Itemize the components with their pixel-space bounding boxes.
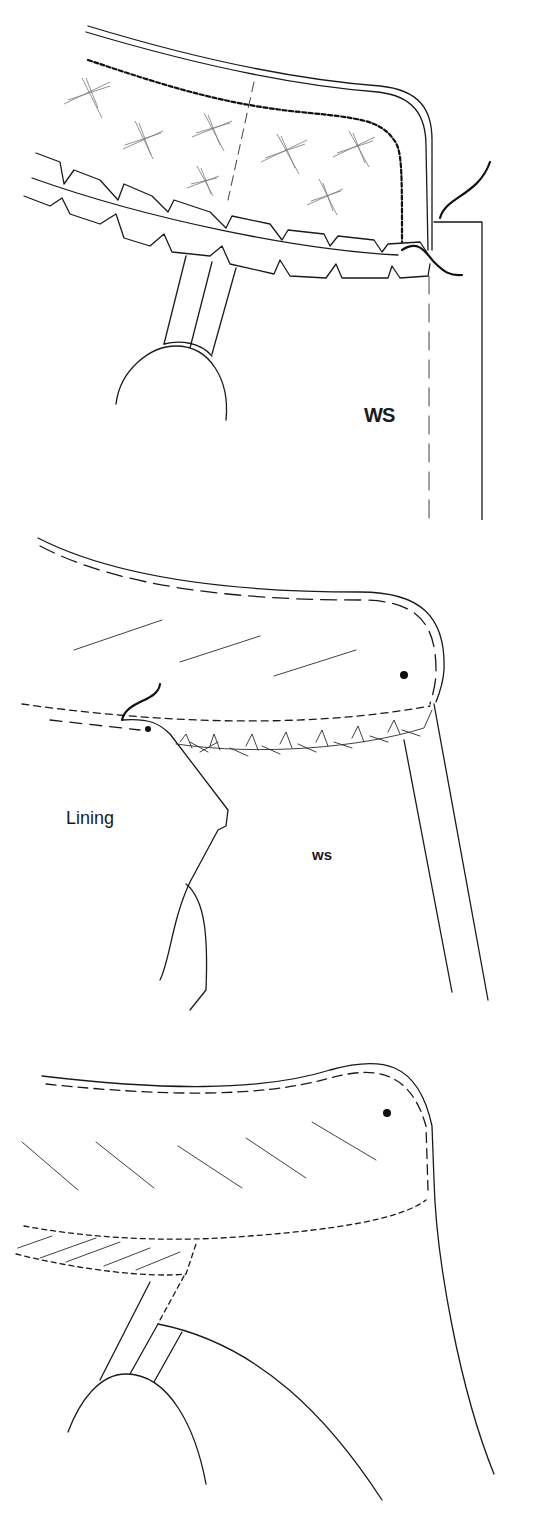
marking-dot [383, 1109, 391, 1117]
marking-dot [400, 671, 408, 679]
garment-right-edge [434, 222, 482, 520]
strap-lines [164, 256, 236, 354]
strap-end [164, 342, 212, 356]
marking-dot-2 [145, 726, 151, 732]
center-fold-line [228, 82, 254, 200]
top-stitch-dashed [40, 546, 436, 704]
lining-dash [50, 720, 140, 730]
fabric-hatching [74, 620, 356, 676]
strap-lines [100, 1282, 182, 1382]
lining-hatching [18, 1236, 180, 1270]
side-seam-lines [404, 704, 488, 1000]
illustration-panel-3 [0, 1030, 534, 1534]
pinked-edge-lower [24, 196, 430, 278]
wrong-side-label-2: WS [312, 846, 332, 863]
pinked-edge-upper [36, 153, 428, 254]
lining-edge-stitched [16, 1244, 196, 1275]
thread [122, 684, 160, 720]
strap-stitch [160, 1276, 184, 1320]
top-edge [38, 538, 444, 702]
fabric-hatching [22, 1122, 376, 1190]
side-curve [158, 1324, 382, 1500]
lining-label: Lining [66, 808, 114, 829]
armhole-curve [116, 346, 227, 420]
panel-2-drawing [0, 520, 534, 1030]
lining-fold [186, 884, 207, 1010]
wrong-side-label: WS [364, 404, 394, 427]
roll-line-dashed [22, 704, 430, 721]
panel-3-drawing [0, 1030, 534, 1534]
panel-1-drawing [0, 0, 534, 520]
top-stitch-dashed [46, 1072, 428, 1190]
stitch-line-heavy [88, 60, 402, 242]
outer-edge-line-1 [88, 26, 432, 250]
thread-upper [440, 162, 490, 218]
lining-edge [122, 720, 228, 980]
roll-line-stitched [24, 1200, 426, 1239]
armhole-curve [68, 1374, 206, 1484]
illustration-panel-1: WS [0, 0, 534, 520]
illustration-panel-2: Lining WS [0, 520, 534, 1030]
